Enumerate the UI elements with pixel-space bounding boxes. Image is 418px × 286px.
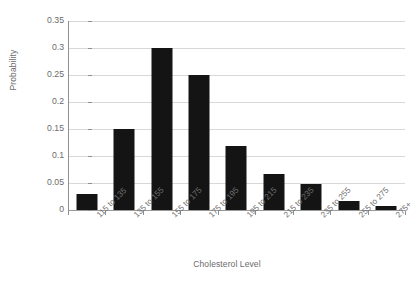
x-tick-label: 235 to 255 xyxy=(319,213,325,219)
x-tick-label: 195 to 215 xyxy=(245,213,251,219)
y-tick-label: 0.35 xyxy=(24,16,64,25)
y-tick-label: 0 xyxy=(24,205,64,214)
bar-chart: Probability 00.050.10.150.20.250.30.35 1… xyxy=(0,0,418,286)
bar-slot xyxy=(105,21,142,210)
x-tick-label: 275+ xyxy=(394,213,400,219)
bar xyxy=(376,206,397,210)
y-tick-label: 0.25 xyxy=(24,70,64,79)
bar-slot xyxy=(143,21,180,210)
y-tick-label: 0.05 xyxy=(24,178,64,187)
bar-slot xyxy=(293,21,330,210)
bars-layer xyxy=(68,21,405,210)
x-axis-labels: 115 to 135135 to 155155 to 175175 to 195… xyxy=(68,213,405,263)
bar xyxy=(151,48,172,210)
x-tick-label: 175 to 195 xyxy=(207,213,213,219)
y-tick-mark xyxy=(88,210,92,211)
y-tick-label: 0.15 xyxy=(24,124,64,133)
bar xyxy=(76,194,97,210)
x-tick-label: 155 to 175 xyxy=(170,213,176,219)
bar-slot xyxy=(368,21,405,210)
x-tick-label: 115 to 135 xyxy=(95,213,101,219)
bar-slot xyxy=(255,21,292,210)
y-tick-label: 0.2 xyxy=(24,97,64,106)
x-tick-label: 135 to 155 xyxy=(132,213,138,219)
bar-slot xyxy=(218,21,255,210)
bar-slot xyxy=(180,21,217,210)
bar-slot xyxy=(68,21,105,210)
y-axis-ticks: 00.050.10.150.20.250.30.35 xyxy=(20,21,64,210)
x-axis-title: Cholesterol Level xyxy=(0,259,418,269)
x-tick-label: 215 to 235 xyxy=(282,213,288,219)
y-axis-title: Probability xyxy=(8,30,18,110)
y-tick-label: 0.1 xyxy=(24,151,64,160)
x-axis-baseline xyxy=(68,210,405,211)
y-tick-label: 0.3 xyxy=(24,43,64,52)
x-tick-label: 255 to 275 xyxy=(357,213,363,219)
bar-slot xyxy=(330,21,367,210)
